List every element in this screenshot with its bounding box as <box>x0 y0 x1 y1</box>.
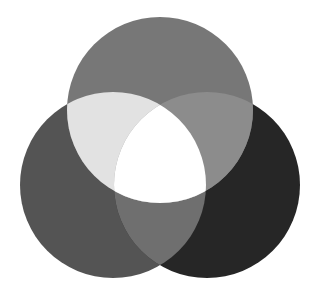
venn-diagram <box>0 0 321 290</box>
